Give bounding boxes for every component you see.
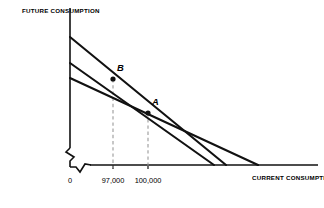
- x-tick-label-100000: 100,000: [121, 176, 175, 185]
- point-marker-b: [110, 76, 115, 81]
- x-axis-break-mark: [70, 164, 91, 172]
- y-axis-break-mark: [66, 148, 74, 167]
- flat-budget-line: [70, 78, 258, 165]
- origin-label: 0: [61, 176, 79, 185]
- point-label-b: B: [117, 62, 124, 73]
- budget-constraint-figure: FUTURE CONSUMPTION CURRENT CONSUMPTION (…: [0, 0, 324, 208]
- x-axis-title: CURRENT CONSUMPTION ($): [252, 174, 318, 182]
- point-marker-a: [145, 110, 150, 115]
- point-label-a: A: [152, 96, 159, 107]
- middle-budget-line: [70, 63, 214, 165]
- y-axis-title: FUTURE CONSUMPTION: [22, 7, 84, 15]
